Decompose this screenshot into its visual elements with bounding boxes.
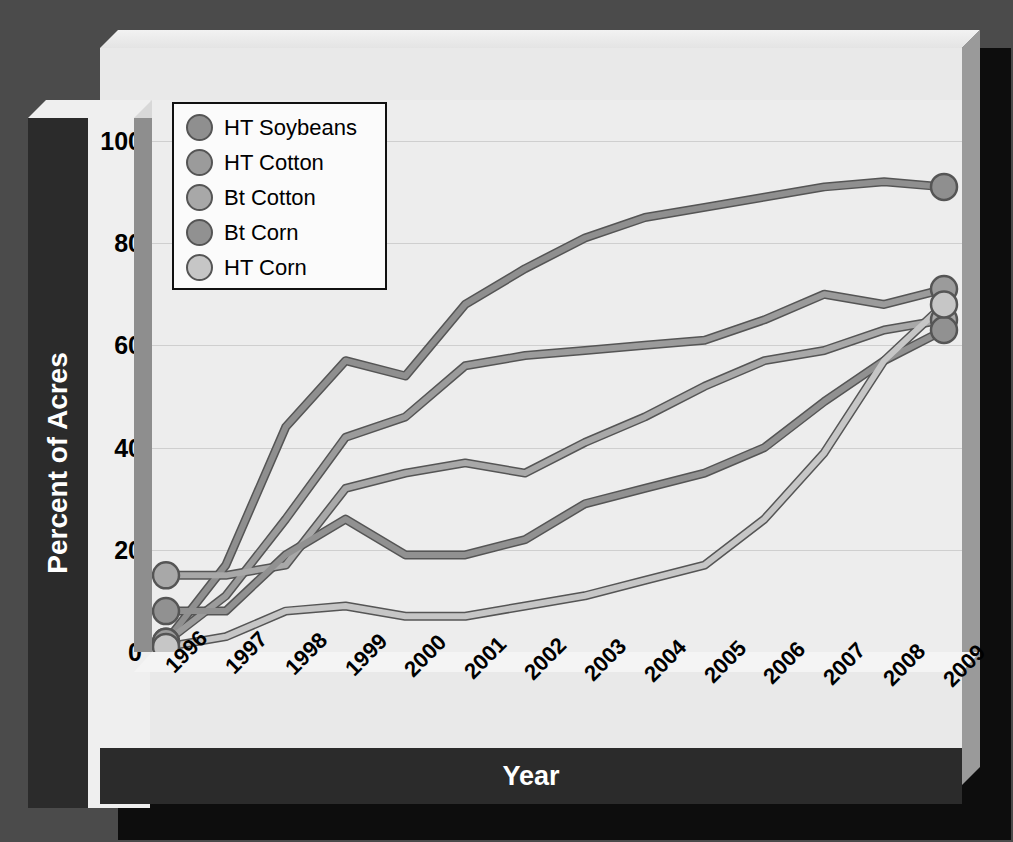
series-endpoint-marker bbox=[153, 562, 179, 588]
legend-marker-icon bbox=[186, 149, 213, 176]
legend-item-label: HT Corn bbox=[224, 255, 307, 281]
legend-item-label: HT Soybeans bbox=[224, 115, 357, 141]
chart-root: Percent of Acres 020406080100 1996199719… bbox=[0, 0, 1013, 842]
legend-item[interactable]: HT Cotton bbox=[174, 145, 385, 180]
series-endpoint-marker bbox=[931, 291, 957, 317]
legend-item[interactable]: Bt Cotton bbox=[174, 180, 385, 215]
legend-item[interactable]: Bt Corn bbox=[174, 215, 385, 250]
legend-item-label: Bt Cotton bbox=[224, 185, 316, 211]
legend-marker-icon bbox=[186, 254, 213, 281]
plot-wall-left bbox=[134, 118, 152, 652]
legend-item-label: Bt Corn bbox=[224, 220, 299, 246]
x-tick-labels: 1996199719981999200020012002200320042005… bbox=[152, 660, 982, 750]
series-line bbox=[166, 289, 944, 642]
y-axis-title: Percent of Acres bbox=[28, 118, 88, 808]
legend-item-label: HT Cotton bbox=[224, 150, 324, 176]
series-endpoint-marker bbox=[931, 317, 957, 343]
x-axis-title: Year bbox=[502, 761, 559, 792]
legend-marker-icon bbox=[186, 219, 213, 246]
x-axis-title-band: Year bbox=[100, 748, 962, 804]
legend-marker-icon bbox=[186, 184, 213, 211]
legend-item[interactable]: HT Corn bbox=[174, 250, 385, 285]
series-endpoint-marker bbox=[931, 174, 957, 200]
legend-marker-icon bbox=[186, 114, 213, 141]
legend-item[interactable]: HT Soybeans bbox=[174, 110, 385, 145]
y-axis-title-label: Percent of Acres bbox=[42, 352, 74, 574]
series-line-outline bbox=[166, 289, 944, 642]
series-endpoint-marker bbox=[153, 598, 179, 624]
slab-top-face bbox=[100, 30, 980, 48]
legend: HT SoybeansHT CottonBt CottonBt CornHT C… bbox=[172, 102, 387, 290]
